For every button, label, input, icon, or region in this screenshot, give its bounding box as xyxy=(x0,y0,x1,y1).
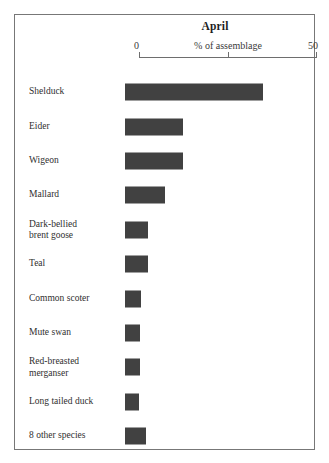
category-label-line: Red-breasted xyxy=(29,356,121,368)
bar xyxy=(125,152,183,169)
bar-track xyxy=(125,419,316,453)
chart-row: Dark-belliedbrent goose xyxy=(15,213,316,247)
category-label-line: Mute swan xyxy=(29,327,121,339)
chart-row: Red-breastedmerganser xyxy=(15,350,316,384)
bar xyxy=(125,324,140,341)
x-axis: 0 % of assemblage 50 xyxy=(125,40,317,72)
bar xyxy=(125,187,165,204)
bar xyxy=(125,221,148,238)
axis-tick-label-max: 50 xyxy=(308,40,318,51)
axis-tick-25 xyxy=(228,52,229,58)
bar-track xyxy=(125,213,316,247)
chart-row: Mallard xyxy=(15,178,316,212)
bar-track xyxy=(125,385,316,419)
bar-track xyxy=(125,178,316,212)
chart-row: Common scoter xyxy=(15,281,316,315)
category-label-line: 8 other species xyxy=(29,430,121,442)
chart-row: Eider xyxy=(15,109,316,143)
bar-track xyxy=(125,109,316,143)
category-label-line: Common scoter xyxy=(29,293,121,305)
bar xyxy=(125,118,183,135)
category-label: Teal xyxy=(29,258,121,270)
category-label-line: Wigeon xyxy=(29,155,121,167)
category-label: Mallard xyxy=(29,190,121,202)
category-label: Dark-belliedbrent goose xyxy=(29,218,121,241)
chart-row: Mute swan xyxy=(15,316,316,350)
category-label-line: Teal xyxy=(29,258,121,270)
chart-rows: ShelduckEiderWigeonMallardDark-belliedbr… xyxy=(15,75,316,453)
category-label: Red-breastedmerganser xyxy=(29,356,121,379)
category-label: Common scoter xyxy=(29,293,121,305)
bar-track xyxy=(125,144,316,178)
bar xyxy=(125,84,263,101)
category-label: Shelduck xyxy=(29,86,121,98)
axis-tick-0 xyxy=(139,52,140,58)
category-label: Wigeon xyxy=(29,155,121,167)
chart-row: 8 other species xyxy=(15,419,316,453)
category-label-line: brent goose xyxy=(29,230,121,242)
bar xyxy=(125,290,141,307)
chart-row: Wigeon xyxy=(15,144,316,178)
category-label-line: Mallard xyxy=(29,190,121,202)
category-label-line: merganser xyxy=(29,367,121,379)
axis-caption: % of assemblage xyxy=(139,40,317,51)
axis-tick-50 xyxy=(316,52,317,58)
chart-row: Long tailed duck xyxy=(15,385,316,419)
bar xyxy=(125,359,140,376)
bar-track xyxy=(125,281,316,315)
category-label-line: Dark-bellied xyxy=(29,218,121,230)
bar xyxy=(125,256,148,273)
bar-track xyxy=(125,316,316,350)
category-label: 8 other species xyxy=(29,430,121,442)
category-label-line: Eider xyxy=(29,121,121,133)
bar-track xyxy=(125,350,316,384)
bar-track xyxy=(125,247,316,281)
category-label-line: Long tailed duck xyxy=(29,396,121,408)
category-label: Long tailed duck xyxy=(29,396,121,408)
chart-row: Teal xyxy=(15,247,316,281)
chart-row: Shelduck xyxy=(15,75,316,109)
category-label-line: Shelduck xyxy=(29,86,121,98)
category-label: Eider xyxy=(29,121,121,133)
bar xyxy=(125,393,139,410)
page-title: April xyxy=(125,20,305,32)
bar-track xyxy=(125,75,316,109)
chart-frame: April 0 % of assemblage 50 ShelduckEider… xyxy=(14,14,315,450)
category-label: Mute swan xyxy=(29,327,121,339)
bar xyxy=(125,428,146,445)
